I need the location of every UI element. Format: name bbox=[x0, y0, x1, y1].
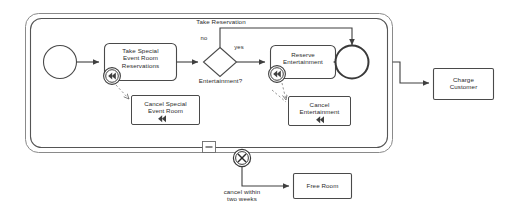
compensation-boundary-event-icon-task2[interactable] bbox=[269, 66, 286, 83]
exclusive-gateway-entertainment[interactable] bbox=[204, 48, 237, 77]
association-task2-to-cancel-entertainment bbox=[282, 83, 286, 100]
start-event[interactable] bbox=[44, 46, 77, 79]
task-free-room[interactable] bbox=[294, 174, 352, 199]
task-charge-customer[interactable] bbox=[434, 69, 494, 100]
end-event[interactable] bbox=[336, 46, 369, 79]
compensation-boundary-event-icon-task1[interactable] bbox=[104, 68, 121, 85]
bpmn-diagram-canvas: Take Reservation Take Special Event Room… bbox=[0, 0, 515, 221]
subprocess-collapse-marker-icon[interactable] bbox=[203, 142, 216, 153]
diagram-vector-layer bbox=[0, 0, 515, 221]
flow-cancel-to-free-room bbox=[242, 167, 289, 186]
flow-gateway-no-to-end bbox=[220, 28, 352, 48]
cancel-boundary-event[interactable] bbox=[233, 149, 250, 166]
flow-subprocess-to-charge-customer bbox=[393, 62, 430, 83]
transaction-subprocess-border bbox=[26, 14, 393, 153]
association-task1-to-cancel-room bbox=[116, 85, 129, 99]
